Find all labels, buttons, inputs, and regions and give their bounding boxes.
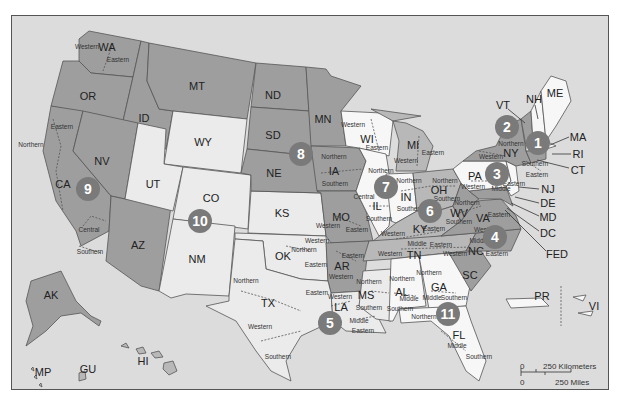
state-label-or: OR [80, 91, 97, 102]
state-label-gu: GU [80, 364, 97, 375]
district-label: Northern [18, 142, 43, 149]
state-nd [251, 63, 309, 111]
state-label-wa: WA [98, 42, 115, 53]
state-label-ar: AR [334, 261, 349, 272]
district-label: Western [316, 223, 340, 230]
district-label: Middle [349, 318, 368, 325]
state-label-fed: FED [546, 249, 568, 260]
district-label: Western [305, 238, 329, 245]
district-label: Middle [407, 241, 426, 248]
state-label-nj: NJ [541, 184, 554, 195]
state-label-mn: MN [314, 114, 331, 125]
district-label: Northern [389, 276, 414, 283]
district-label: Middle [422, 295, 441, 302]
state-label-ky: KY [413, 224, 428, 235]
state-label-nv: NV [94, 156, 109, 167]
district-label: Eastern [352, 328, 374, 335]
state-label-ne: NE [266, 168, 281, 179]
district-label: Eastern [422, 150, 444, 157]
state-label-ri: RI [573, 149, 584, 160]
state-label-nh: NH [526, 94, 542, 105]
district-label: Eastern [366, 145, 388, 152]
state-label-nd: ND [265, 90, 281, 101]
district-label: Southern [366, 216, 392, 223]
district-label: Southern [265, 354, 291, 361]
district-label: Western [75, 44, 99, 51]
state-label-sd: SD [265, 130, 280, 141]
state-label-tx: TX [261, 298, 275, 309]
district-label: Southern [77, 249, 103, 256]
leader-ma [550, 137, 569, 145]
circuit-badge-6: 6 [418, 199, 442, 223]
state-label-ks: KS [275, 208, 290, 219]
district-label: Eastern [526, 172, 548, 179]
district-label: Western [479, 154, 503, 161]
state-label-wy: WY [194, 137, 212, 148]
district-label: Southern [356, 305, 382, 312]
leader-nj [519, 187, 539, 189]
state-label-pr: PR [534, 291, 549, 302]
district-label: Northern [416, 270, 441, 277]
district-label: Eastern [488, 212, 510, 219]
district-label: Eastern [306, 290, 328, 297]
district-label: Eastern [305, 262, 327, 269]
state-label-ct: CT [571, 165, 586, 176]
state-label-id: ID [139, 113, 150, 124]
state-label-nm: NM [188, 254, 205, 265]
state-label-de: DE [540, 198, 555, 209]
map-frame: WesternEasternEasternNorthernCentralSout… [11, 15, 609, 390]
district-label: Eastern [486, 251, 508, 258]
state-label-md: MD [539, 212, 556, 223]
state-label-az: AZ [131, 240, 145, 251]
circuit-badge-5: 5 [318, 311, 342, 335]
scale-km-zero: 0 [520, 362, 524, 371]
district-label: Eastern [342, 253, 364, 260]
district-label: Western [341, 122, 365, 129]
district-label: Western [248, 324, 272, 331]
us-map-svg [12, 16, 609, 390]
circuit-badge-7: 7 [374, 175, 398, 199]
state-label-ak: AK [44, 290, 59, 301]
state-label-la: LA [334, 302, 347, 313]
state-label-mo: MO [332, 212, 350, 223]
district-label: Southern [387, 306, 413, 313]
circuit-badge-11: 11 [436, 302, 460, 326]
district-label: Western [461, 184, 485, 191]
state-label-ca: CA [55, 179, 70, 190]
district-label: Southern [322, 181, 348, 188]
leader-de [515, 197, 539, 203]
district-label: Eastern [107, 57, 129, 64]
state-label-va: VA [476, 213, 490, 224]
state-label-ia: IA [329, 166, 339, 177]
state-label-mp: MP [35, 367, 52, 378]
state-label-sc: SC [462, 270, 477, 281]
scale-mi-zero: 0 [520, 378, 524, 387]
district-label: Central [79, 227, 100, 234]
district-label: Western [394, 158, 418, 165]
state-hi [121, 343, 177, 375]
district-label: Northern [321, 154, 346, 161]
state-label-vt: VT [496, 100, 510, 111]
district-label: Northern [233, 278, 258, 285]
district-label: Northern [368, 168, 393, 175]
circuit-badge-1: 1 [526, 131, 550, 155]
state-label-ma: MA [570, 132, 587, 143]
state-ak [26, 271, 101, 346]
district-label: Northern [356, 279, 381, 286]
circuit-badge-4: 4 [483, 225, 507, 249]
state-label-al: AL [395, 287, 408, 298]
state-label-ga: GA [431, 282, 447, 293]
district-label: Western [329, 274, 353, 281]
district-label: Southern [522, 161, 548, 168]
state-label-co: CO [203, 193, 220, 204]
state-label-nc: NC [468, 246, 484, 257]
circuit-badge-9: 9 [76, 177, 100, 201]
district-label: Western [328, 294, 352, 301]
district-label: Eastern [430, 242, 452, 249]
district-label: Eastern [51, 124, 73, 131]
state-label-ok: OK [275, 251, 291, 262]
state-label-wv: WV [450, 208, 468, 219]
circuit-badge-8: 8 [289, 142, 313, 166]
state-label-ms: MS [358, 290, 375, 301]
state-label-me: ME [547, 88, 564, 99]
